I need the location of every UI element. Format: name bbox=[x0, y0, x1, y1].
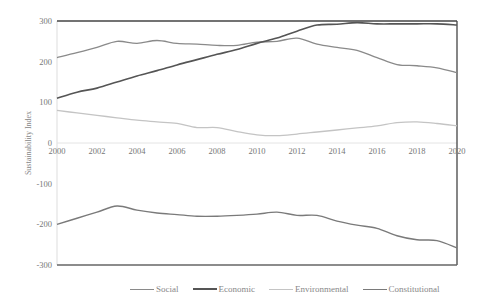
line-chart: 3002001000-100-200-300200020022004200620… bbox=[0, 0, 488, 303]
y-tick-label: 300 bbox=[39, 16, 52, 26]
x-tick-label: 2006 bbox=[169, 146, 186, 156]
y-tick-label: -200 bbox=[36, 219, 52, 229]
legend-item-social: Social bbox=[130, 284, 179, 294]
y-tick-label: -300 bbox=[36, 260, 52, 270]
y-tick-label: -100 bbox=[36, 179, 52, 189]
x-tick-label: 2004 bbox=[129, 146, 147, 156]
legend-swatch-icon bbox=[130, 289, 154, 290]
legend: Social Economic Environmental Constituti… bbox=[130, 284, 440, 294]
x-tick-label: 2020 bbox=[449, 146, 466, 156]
x-tick-label: 2012 bbox=[289, 146, 306, 156]
x-tick-label: 2010 bbox=[249, 146, 266, 156]
x-tick-label: 2002 bbox=[89, 146, 106, 156]
x-tick-label: 2008 bbox=[209, 146, 226, 156]
legend-label: Environmental bbox=[295, 284, 349, 294]
y-axis-label: Sustainability Index bbox=[24, 111, 33, 175]
x-tick-label: 2016 bbox=[369, 146, 386, 156]
y-tick-label: 100 bbox=[39, 97, 52, 107]
legend-swatch-icon bbox=[193, 288, 217, 290]
x-tick-label: 2014 bbox=[329, 146, 347, 156]
legend-item-economic: Economic bbox=[193, 284, 256, 294]
plot-area: 3002001000-100-200-300200020022004200620… bbox=[0, 0, 488, 303]
series-line-constitutional bbox=[57, 206, 457, 248]
legend-label: Constitutional bbox=[389, 284, 440, 294]
series-line-economic bbox=[57, 23, 457, 99]
y-tick-label: 200 bbox=[39, 57, 52, 67]
legend-item-environmental: Environmental bbox=[269, 284, 349, 294]
legend-swatch-icon bbox=[269, 289, 293, 290]
series-line-environmental bbox=[57, 110, 457, 135]
legend-swatch-icon bbox=[363, 289, 387, 290]
legend-item-constitutional: Constitutional bbox=[363, 284, 440, 294]
legend-label: Social bbox=[156, 284, 179, 294]
legend-label: Economic bbox=[219, 284, 256, 294]
x-tick-label: 2000 bbox=[49, 146, 66, 156]
x-tick-label: 2018 bbox=[409, 146, 426, 156]
